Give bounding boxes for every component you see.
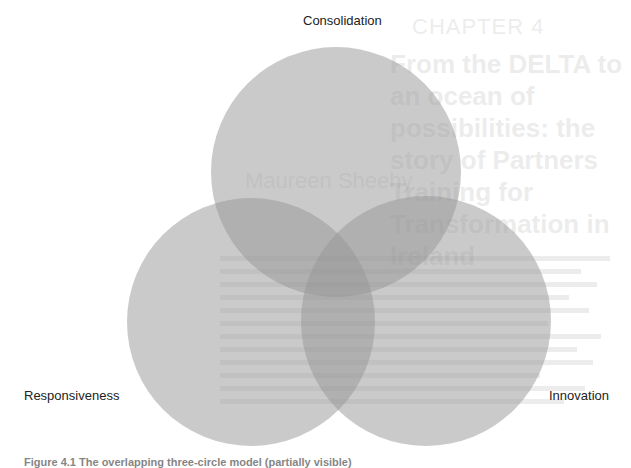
label-consolidation: Consolidation	[303, 13, 382, 28]
label-innovation: Innovation	[549, 388, 609, 403]
label-responsiveness: Responsiveness	[24, 388, 119, 403]
figure-caption: Figure 4.1 The overlapping three-circle …	[24, 456, 352, 468]
circle-innovation	[301, 196, 551, 446]
